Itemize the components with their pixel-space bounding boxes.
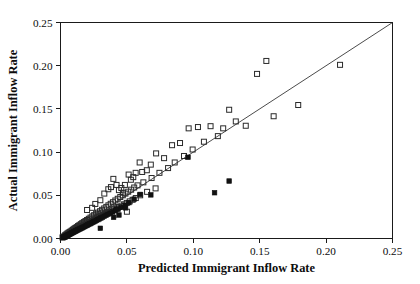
open-square-marker — [201, 139, 206, 144]
open-square-marker — [208, 124, 213, 129]
filled-square-marker — [114, 207, 119, 212]
y-tick-label: 0.20 — [33, 60, 53, 72]
y-tick-label: 0.10 — [33, 146, 53, 158]
open-square-marker — [133, 170, 138, 175]
x-tick-label: 0.20 — [316, 245, 336, 257]
open-square-marker — [154, 151, 159, 156]
filled-square-marker — [227, 179, 232, 184]
open-square-marker — [338, 62, 343, 67]
filled-square-marker — [212, 190, 217, 195]
filled-square-marker — [117, 213, 122, 218]
x-tick-label: 0.10 — [184, 245, 204, 257]
filled-square-marker — [127, 200, 132, 205]
chart-svg: 0.000.050.100.150.200.250.000.050.100.15… — [0, 0, 420, 284]
open-square-marker — [190, 147, 195, 152]
open-square-marker — [227, 107, 232, 112]
open-square-marker — [144, 168, 149, 173]
open-square-marker — [162, 156, 167, 161]
x-tick-label: 0.25 — [383, 245, 403, 257]
open-square-marker — [264, 58, 269, 63]
open-square-marker — [135, 183, 140, 188]
filled-square-marker — [123, 206, 128, 211]
open-square-marker — [233, 119, 238, 124]
open-square-marker — [98, 198, 103, 203]
filled-square-marker — [98, 226, 103, 231]
open-square-marker — [271, 114, 276, 119]
open-square-marker — [111, 176, 116, 181]
open-square-marker — [153, 186, 158, 191]
open-square-marker — [85, 207, 90, 212]
open-square-marker — [108, 185, 113, 190]
scatter-plot-figure: 0.000.050.100.150.200.250.000.050.100.15… — [0, 0, 420, 284]
open-square-marker — [195, 125, 200, 130]
open-square-marker — [215, 134, 220, 139]
open-square-marker — [221, 126, 226, 131]
open-square-marker — [114, 182, 119, 187]
open-square-marker — [255, 71, 260, 76]
open-square-marker — [122, 182, 127, 187]
open-square-marker — [120, 190, 125, 195]
open-square-marker — [93, 201, 98, 206]
series-open-square-observations — [60, 58, 343, 240]
filled-square-marker — [138, 192, 143, 197]
open-square-marker — [148, 162, 153, 167]
open-square-marker — [166, 166, 171, 171]
filled-square-marker — [149, 193, 154, 198]
open-square-marker — [170, 143, 175, 148]
open-square-marker — [137, 160, 142, 165]
y-tick-label: 0.05 — [33, 189, 53, 201]
open-square-marker — [157, 170, 162, 175]
filled-square-marker — [132, 197, 137, 202]
filled-square-marker — [111, 215, 116, 220]
x-tick-label: 0.05 — [117, 245, 137, 257]
x-tick-label: 0.00 — [51, 245, 71, 257]
y-tick-label: 0.00 — [33, 233, 53, 245]
open-square-marker — [172, 160, 177, 165]
filled-square-marker — [186, 155, 191, 160]
y-tick-label: 0.15 — [33, 103, 53, 115]
open-square-marker — [178, 141, 183, 146]
open-square-marker — [243, 123, 248, 128]
open-square-marker — [149, 176, 154, 181]
y-axis-title: Actual Immigrant Inflow Rate — [6, 49, 20, 211]
open-square-marker — [186, 126, 191, 131]
y-tick-label: 0.25 — [33, 17, 53, 29]
x-axis-title: Predicted Immigrant Inflow Rate — [138, 261, 315, 275]
open-square-marker — [296, 103, 301, 108]
open-square-marker — [141, 180, 146, 185]
x-tick-label: 0.15 — [250, 245, 270, 257]
